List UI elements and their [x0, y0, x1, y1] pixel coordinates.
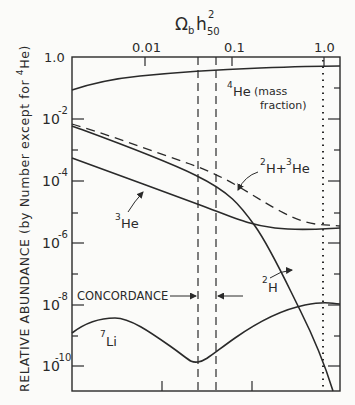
arrow-d-plus-he3	[238, 172, 258, 190]
bbn-abundance-chart: Ω b h 50 2 0.01 0.1 1.0	[0, 0, 355, 405]
svg-text:h: h	[196, 14, 207, 34]
label-he4: 4 He (mass fraction)	[227, 80, 307, 112]
bottom-ticks	[162, 381, 252, 391]
svg-text:-8: -8	[58, 291, 68, 302]
svg-text:Li: Li	[106, 334, 117, 349]
svg-text:He: He	[121, 216, 139, 231]
svg-text:(mass: (mass	[254, 85, 287, 98]
svg-text:Ω: Ω	[175, 14, 188, 34]
series-li7	[72, 302, 340, 362]
y-tick-label-1: 1.0	[44, 50, 65, 65]
svg-text:2: 2	[262, 275, 268, 285]
label-he3: 3 He	[115, 212, 139, 231]
y-tick-label-1e-4: 10 -4	[42, 167, 68, 189]
svg-text:-6: -6	[58, 229, 68, 240]
svg-text:2: 2	[208, 9, 214, 20]
y-tick-label-1e-6: 10 -6	[42, 229, 68, 251]
svg-text:H: H	[268, 280, 278, 295]
svg-text:3: 3	[286, 157, 292, 167]
svg-text:3: 3	[115, 212, 121, 222]
svg-text:50: 50	[207, 26, 220, 37]
series-he4	[72, 66, 340, 90]
y-axis-label: RELATIVE ABUNDANCE (by Number except for…	[15, 45, 32, 392]
y-tick-label-1e-10: 10 -10	[42, 352, 71, 374]
svg-text:-10: -10	[55, 352, 71, 363]
top-axis-title: Ω b h 50 2	[175, 9, 220, 37]
x-tick-label-1.0: 1.0	[314, 40, 335, 55]
y-tick-label-1e-8: 10 -8	[42, 291, 68, 313]
svg-text:-4: -4	[58, 167, 68, 178]
svg-text:H+: H+	[266, 161, 287, 176]
arrow-he3	[128, 192, 143, 212]
label-li7: 7 Li	[100, 329, 117, 349]
concordance-label: CONCORDANCE	[77, 289, 168, 303]
svg-text:7: 7	[100, 329, 106, 339]
svg-text:RELATIVE ABUNDANCE (by Number: RELATIVE ABUNDANCE (by Number except for…	[15, 45, 32, 392]
label-d-plus-he3: 2 H+ 3 He	[260, 157, 310, 176]
svg-text:He: He	[292, 161, 310, 176]
label-h2: 2 H	[262, 275, 278, 295]
svg-text:-2: -2	[58, 105, 68, 116]
x-tick-label-0.01: 0.01	[132, 40, 161, 55]
svg-text:He: He	[233, 84, 251, 99]
svg-text:b: b	[188, 25, 194, 36]
svg-text:fraction): fraction)	[260, 99, 307, 112]
right-ticks	[328, 88, 340, 366]
top-ticks	[145, 57, 324, 66]
x-tick-label-0.1: 0.1	[224, 40, 245, 55]
y-tick-label-1e-2: 10 -2	[42, 105, 68, 127]
svg-text:2: 2	[260, 157, 266, 167]
